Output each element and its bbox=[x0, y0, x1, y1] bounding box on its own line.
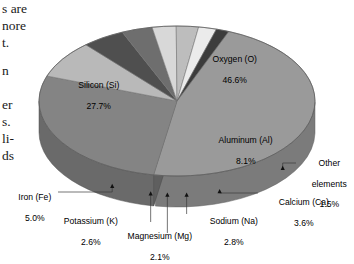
slice-label-aluminum: Aluminum (Al) 8.1% bbox=[193, 125, 289, 176]
slice-label-iron: Iron (Fe) 5.0% bbox=[0, 182, 61, 233]
slice-label-oxygen: Oxygen (O) 46.6% bbox=[184, 44, 276, 95]
slice-label-calcium: Calcium (Ca) 3.6% bbox=[258, 187, 340, 238]
slice-label-silicon: Silicon (Si) 27.7% bbox=[48, 70, 140, 121]
